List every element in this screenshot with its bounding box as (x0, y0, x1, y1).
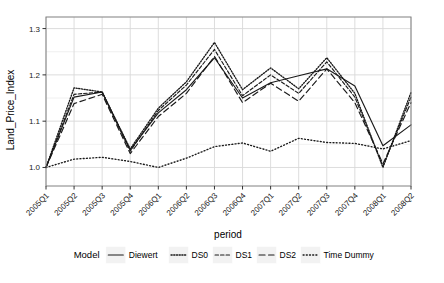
legend-label: DS0 (192, 250, 209, 260)
legend-label: DS1 (236, 250, 253, 260)
land-price-index-chart: 1.01.11.21.3 2005Q12005Q22005Q32005Q4200… (0, 0, 444, 283)
y-tick-label: 1.0 (29, 163, 41, 172)
legend-title: Model (74, 249, 100, 260)
legend-label: Diewert (129, 250, 158, 260)
y-axis-label: Land_Price_Index (5, 70, 16, 151)
x-axis-label: period (214, 229, 242, 240)
legend-label: DS2 (280, 250, 297, 260)
legend-label: Time Dummy (324, 250, 375, 260)
y-tick-label: 1.1 (29, 117, 41, 126)
chart-canvas: 1.01.11.21.3 2005Q12005Q22005Q32005Q4200… (0, 0, 444, 283)
y-tick-label: 1.3 (29, 25, 41, 34)
y-tick-label: 1.2 (29, 71, 41, 80)
